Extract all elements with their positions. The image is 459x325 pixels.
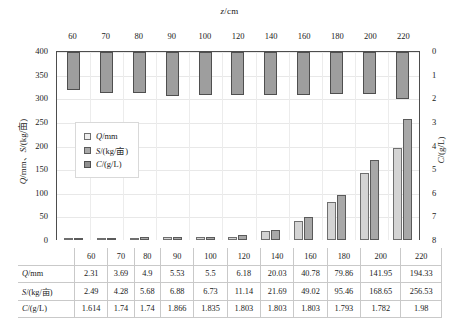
legend-item-label: Q/mm: [96, 131, 118, 141]
legend-item-0: Q/mm: [84, 129, 128, 143]
table-header-cell-160: 160: [294, 248, 327, 265]
table-cell: 6.73: [194, 283, 227, 301]
right-axis-title: C/(g/L): [436, 105, 446, 195]
table-header-cell-100: 100: [194, 248, 227, 265]
right-axis-tick-1: 1: [432, 70, 436, 80]
left-axis-title: Q/mm、S/(kg/亩): [16, 92, 29, 212]
table-cell: 2.31: [75, 265, 108, 283]
table-cell: 141.95: [361, 265, 401, 283]
bar-q-60: [64, 238, 73, 240]
bar-s-220: [403, 119, 412, 240]
bar-s-160: [304, 217, 313, 240]
qs-bar-wrapper: [287, 52, 320, 240]
bar-group-180: [320, 52, 353, 240]
top-axis-tick-60: 60: [56, 31, 89, 45]
bar-q-100: [196, 237, 205, 240]
table-cell: 21.69: [261, 283, 294, 301]
left-axis-tick-50: 50: [40, 211, 49, 221]
table-row-label: S/(kg/亩): [18, 283, 75, 301]
legend-swatch-icon: [84, 147, 91, 154]
table-cell: 20.03: [261, 265, 294, 283]
bar-group-200: [353, 52, 386, 240]
bar-group-140: [254, 52, 287, 240]
top-axis-tick-100: 100: [188, 31, 221, 45]
bar-group-90: [156, 52, 189, 240]
bar-s-140: [271, 230, 280, 240]
table-cell: 1.803: [261, 300, 294, 318]
bar-s-180: [337, 195, 346, 240]
table-cell: 4.28: [108, 283, 134, 301]
table-cell: 1.74: [108, 300, 134, 318]
left-axis-tick-100: 100: [35, 188, 48, 198]
bar-q-80: [130, 238, 139, 240]
table-cell: 6.18: [227, 265, 260, 283]
table-corner-cell: [18, 248, 75, 265]
bar-s-80: [140, 237, 149, 240]
chart-legend: Q/mmS/(kg/亩)C/(g/L): [75, 122, 139, 178]
table-header-cell-60: 60: [75, 248, 108, 265]
legend-swatch-icon: [84, 133, 91, 140]
table-cell: 95.46: [327, 283, 360, 301]
bar-s-70: [107, 238, 116, 240]
qs-bar-wrapper: [386, 52, 419, 240]
table-cell: 1.835: [194, 300, 227, 318]
table-header-cell-140: 140: [261, 248, 294, 265]
bar-q-140: [261, 231, 270, 240]
table-cell: 49.02: [294, 283, 327, 301]
table-cell: 40.78: [294, 265, 327, 283]
bar-q-90: [163, 237, 172, 240]
table-cell: 1.866: [161, 300, 194, 318]
table-header-cell-80: 80: [134, 248, 160, 265]
table-cell: 79.86: [327, 265, 360, 283]
bar-s-90: [173, 237, 182, 240]
table-cell: 1.793: [327, 300, 360, 318]
top-axis-tick-160: 160: [288, 31, 321, 45]
table-cell: 2.49: [75, 283, 108, 301]
top-axis-tick-140: 140: [255, 31, 288, 45]
table-cell: 5.68: [134, 283, 160, 301]
bar-q-220: [393, 148, 402, 240]
left-axis-tick-150: 150: [35, 164, 48, 174]
table-cell: 5.53: [161, 265, 194, 283]
data-table: 60708090100120140160180200220Q/mm2.313.6…: [18, 248, 442, 318]
bar-q-160: [294, 221, 303, 240]
table-cell: 1.803: [294, 300, 327, 318]
qs-bar-wrapper: [320, 52, 353, 240]
top-axis-tick-90: 90: [155, 31, 188, 45]
left-axis-tick-0: 0: [44, 235, 48, 245]
bar-q-200: [360, 173, 369, 240]
qs-bar-wrapper: [254, 52, 287, 240]
table-row-label: C/(g/L): [18, 300, 75, 318]
bar-group-100: [189, 52, 222, 240]
table-cell: 1.98: [401, 300, 442, 318]
left-axis-tick-200: 200: [35, 141, 48, 151]
legend-item-label: S/(kg/亩): [96, 144, 128, 156]
table-row-label: Q/mm: [18, 265, 75, 283]
top-axis-tick-70: 70: [89, 31, 122, 45]
legend-item-2: C/(g/L): [84, 157, 128, 171]
top-axis-tick-120: 120: [221, 31, 254, 45]
table-row: C/(g/L)1.6141.741.741.8661.8351.8031.803…: [18, 300, 442, 318]
table-cell: 6.88: [161, 283, 194, 301]
table-cell: 4.9: [134, 265, 160, 283]
chart-page: z/cm 60708090100120140160180200220 05010…: [0, 0, 459, 325]
top-axis-tick-180: 180: [321, 31, 354, 45]
table-cell: 5.5: [194, 265, 227, 283]
table-cell: 1.782: [361, 300, 401, 318]
bar-s-60: [74, 238, 83, 240]
bar-q-120: [228, 237, 237, 240]
table-header-cell-120: 120: [227, 248, 260, 265]
table-cell: 1.74: [134, 300, 160, 318]
bar-s-120: [238, 235, 247, 240]
bar-s-100: [206, 237, 215, 240]
table-row: S/(kg/亩)2.494.285.686.886.7311.1421.6949…: [18, 283, 442, 301]
table-cell: 1.803: [227, 300, 260, 318]
table-cell: 3.69: [108, 265, 134, 283]
top-axis-tick-labels: 60708090100120140160180200220: [56, 31, 420, 45]
top-axis-tick-80: 80: [122, 31, 155, 45]
legend-item-1: S/(kg/亩): [84, 143, 128, 157]
left-axis-tick-400: 400: [35, 46, 48, 56]
table-cell: 256.53: [401, 283, 442, 301]
table-row: Q/mm2.313.694.95.535.56.1820.0340.7879.8…: [18, 265, 442, 283]
bar-s-200: [370, 160, 379, 240]
